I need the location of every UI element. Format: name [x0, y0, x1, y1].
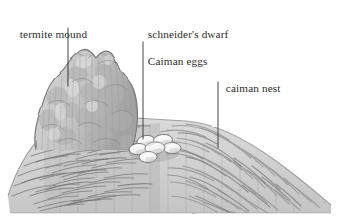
label-caiman-eggs-line2: Caiman eggs [148, 55, 208, 67]
label-termite-mound-text: termite mound [20, 28, 88, 40]
termite-mound-object [35, 48, 152, 150]
label-termite-mound: termite mound [8, 14, 87, 55]
label-caiman-eggs-line1: schneider's dwarf [148, 28, 229, 40]
label-caiman-nest-text: caiman nest [226, 82, 281, 94]
label-caiman-nest: caiman nest [214, 68, 281, 109]
figure-caiman-nest-diagram: termite mound schneider's dwarf Caiman e… [0, 0, 339, 221]
